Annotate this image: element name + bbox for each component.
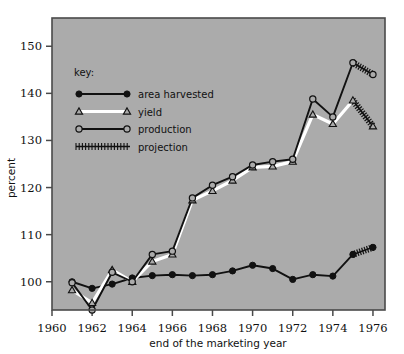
marker-filled-circle (189, 273, 195, 279)
marker-filled-circle (149, 273, 155, 279)
x-tick-label: 1976 (358, 321, 387, 335)
marker-open-circle (270, 159, 276, 165)
chart-figure: 100110120130140150 196019621964196619681… (0, 0, 404, 354)
y-tick-label: 110 (20, 228, 42, 242)
marker-open-circle (290, 156, 296, 162)
marker-open-circle (250, 162, 256, 168)
x-tick-label: 1962 (77, 321, 106, 335)
marker-filled-circle (310, 272, 316, 278)
legend-label: area harvested (138, 89, 214, 100)
marker-open-circle (350, 60, 356, 66)
marker-open-circle (129, 279, 135, 285)
legend-title: key: (74, 67, 94, 78)
marker-filled-circle (109, 281, 115, 287)
line-chart-canvas: 100110120130140150 196019621964196619681… (0, 0, 404, 354)
marker-open-circle (169, 248, 175, 254)
legend-label: yield (138, 107, 162, 118)
x-tick-label: 1970 (238, 321, 267, 335)
x-axis-title: end of the marketing year (149, 337, 287, 349)
marker-open-circle (209, 182, 215, 188)
marker-filled-circle (76, 91, 82, 97)
marker-filled-circle (350, 251, 356, 257)
marker-filled-circle (229, 268, 235, 274)
marker-open-circle (189, 195, 195, 201)
marker-filled-circle (209, 272, 215, 278)
y-tick-label: 140 (20, 86, 42, 100)
x-tick-label: 1974 (318, 321, 347, 335)
y-axis-title: percent (5, 158, 17, 198)
marker-open-circle (69, 280, 75, 286)
marker-open-circle (370, 71, 376, 77)
marker-filled-circle (169, 272, 175, 278)
marker-filled-circle (270, 265, 276, 271)
marker-filled-circle (250, 262, 256, 268)
marker-filled-circle (290, 276, 296, 282)
marker-open-circle (124, 126, 130, 132)
y-tick-label: 130 (20, 133, 42, 147)
legend-label: projection (138, 142, 188, 153)
x-tick-label: 1968 (198, 321, 227, 335)
y-tick-label: 100 (20, 275, 42, 289)
marker-open-circle (330, 114, 336, 120)
marker-filled-circle (370, 244, 376, 250)
x-tick-label: 1972 (278, 321, 307, 335)
marker-open-circle (310, 96, 316, 102)
marker-open-circle (109, 269, 115, 275)
marker-filled-circle (124, 91, 130, 97)
y-tick-label: 150 (20, 39, 42, 53)
y-tick-label: 120 (20, 181, 42, 195)
marker-open-circle (149, 251, 155, 257)
legend-label: production (138, 124, 192, 135)
x-tick-label: 1964 (118, 321, 147, 335)
x-tick-label: 1960 (37, 321, 66, 335)
marker-filled-circle (89, 285, 95, 291)
plot-area-background (52, 18, 385, 310)
marker-open-circle (229, 174, 235, 180)
marker-open-circle (76, 126, 82, 132)
marker-filled-circle (330, 273, 336, 279)
x-tick-label: 1966 (158, 321, 187, 335)
